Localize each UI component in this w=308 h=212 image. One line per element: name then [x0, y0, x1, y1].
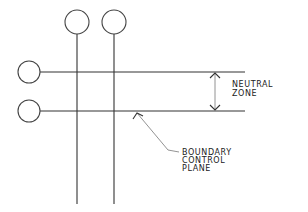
diagram-canvas: NEUTRAL ZONE BOUNDARY CONTROL PLANE — [0, 0, 308, 212]
left-node-2 — [18, 100, 40, 122]
top-node-2 — [102, 10, 126, 34]
top-node-1 — [65, 10, 89, 34]
neutral-zone-arrow-icon — [210, 73, 220, 110]
left-node-1 — [18, 61, 40, 83]
neutral-zone-label: NEUTRAL ZONE — [232, 80, 276, 98]
boundary-control-plane-label: BOUNDARY CONTROL PLANE — [182, 148, 235, 173]
boundary-leader-arrow-icon — [133, 113, 179, 152]
